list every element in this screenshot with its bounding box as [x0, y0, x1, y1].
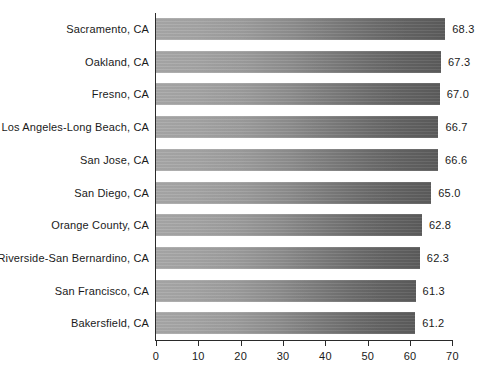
bar-row: Los Angeles-Long Beach, CA66.7: [0, 116, 481, 138]
x-tick-30: [283, 341, 284, 346]
x-tick-10: [198, 341, 199, 346]
value-label: 65.0: [438, 182, 460, 204]
bar-row: San Jose, CA66.6: [0, 149, 481, 171]
category-label: Sacramento, CA: [66, 18, 149, 40]
bar: [156, 182, 431, 204]
category-label: Bakersfield, CA: [71, 312, 149, 334]
x-tick-70: [452, 341, 453, 346]
bar-row: Orange County, CA62.8: [0, 214, 481, 236]
x-tick-label-10: 10: [178, 350, 218, 362]
bar-chart: 010203040506070 Sacramento, CA68.3Oaklan…: [0, 0, 481, 385]
category-label: Fresno, CA: [92, 83, 149, 105]
value-label: 62.3: [427, 247, 449, 269]
bar-row: Sacramento, CA68.3: [0, 18, 481, 40]
bar-row: Oakland, CA67.3: [0, 51, 481, 73]
value-label: 67.3: [448, 51, 470, 73]
value-label: 68.3: [452, 18, 474, 40]
category-label: San Jose, CA: [80, 149, 149, 171]
category-label: Riverside-San Bernardino, CA: [0, 247, 149, 269]
x-tick-label-20: 20: [221, 350, 261, 362]
category-label: San Francisco, CA: [55, 280, 149, 302]
bar: [156, 116, 438, 138]
x-tick-label-30: 30: [263, 350, 303, 362]
category-label: Los Angeles-Long Beach, CA: [1, 116, 149, 138]
category-label: Orange County, CA: [51, 214, 149, 236]
value-label: 66.6: [445, 149, 467, 171]
bar: [156, 280, 416, 302]
x-axis-line: [155, 340, 453, 341]
value-label: 61.2: [422, 312, 444, 334]
bar-row: San Francisco, CA61.3: [0, 280, 481, 302]
bar-row: Bakersfield, CA61.2: [0, 312, 481, 334]
x-tick-label-50: 50: [348, 350, 388, 362]
x-tick-label-70: 70: [432, 350, 472, 362]
plot-area: 010203040506070 Sacramento, CA68.3Oaklan…: [0, 0, 481, 385]
x-tick-label-40: 40: [305, 350, 345, 362]
bar-row: Fresno, CA67.0: [0, 83, 481, 105]
bar: [156, 149, 438, 171]
category-label: San Diego, CA: [74, 182, 149, 204]
bar: [156, 18, 445, 40]
x-tick-label-60: 60: [390, 350, 430, 362]
x-tick-0: [156, 341, 157, 346]
bar: [156, 312, 415, 334]
value-label: 66.7: [445, 116, 467, 138]
bar: [156, 83, 440, 105]
bar: [156, 247, 420, 269]
value-label: 61.3: [423, 280, 445, 302]
x-tick-label-0: 0: [136, 350, 176, 362]
x-tick-40: [325, 341, 326, 346]
x-tick-20: [241, 341, 242, 346]
bar-row: San Diego, CA65.0: [0, 182, 481, 204]
x-tick-60: [410, 341, 411, 346]
category-label: Oakland, CA: [85, 51, 149, 73]
x-tick-50: [368, 341, 369, 346]
value-label: 62.8: [429, 214, 451, 236]
value-label: 67.0: [447, 83, 469, 105]
bar: [156, 51, 441, 73]
bar: [156, 214, 422, 236]
bar-row: Riverside-San Bernardino, CA62.3: [0, 247, 481, 269]
